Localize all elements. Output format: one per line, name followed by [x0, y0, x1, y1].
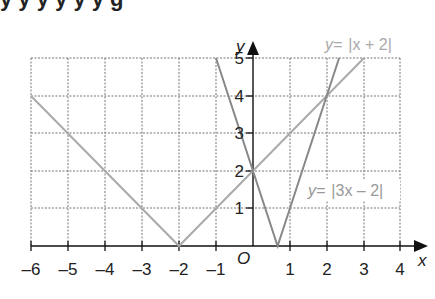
- svg-text:4: 4: [235, 87, 244, 106]
- svg-text:1: 1: [235, 199, 244, 218]
- svg-text:–1: –1: [207, 260, 226, 279]
- svg-text:3: 3: [359, 260, 368, 279]
- svg-text:1: 1: [285, 260, 294, 279]
- svg-text:y=|3x – 2|: y=|3x – 2|: [307, 182, 383, 199]
- x-axis-label: x: [417, 251, 427, 270]
- svg-text:2: 2: [322, 260, 331, 279]
- svg-text:2: 2: [235, 162, 244, 181]
- x-tick-labels: –6 –5 –4 –3 –2 –1 1 2 3 4: [22, 260, 405, 279]
- y-axis-label: y: [235, 37, 246, 56]
- y-ticks: [246, 58, 253, 208]
- svg-text:–6: –6: [22, 260, 41, 279]
- chart: –6 –5 –4 –3 –2 –1 1 2 3 4 1 2 3 4 5 y x …: [0, 0, 435, 299]
- svg-text:–2: –2: [170, 260, 189, 279]
- series-abs-x-plus-2: [31, 58, 364, 246]
- fn1-label: y=|x + 2|: [324, 36, 392, 53]
- svg-text:–4: –4: [96, 260, 115, 279]
- svg-text:y=|x + 2|: y=|x + 2|: [324, 36, 392, 53]
- svg-text:3: 3: [235, 124, 244, 143]
- svg-text:–3: –3: [133, 260, 152, 279]
- origin-label: O: [237, 249, 250, 268]
- axes: [31, 50, 420, 246]
- y-axis-arrow-icon: [247, 41, 259, 55]
- y-tick-labels: 1 2 3 4 5: [235, 49, 244, 218]
- svg-text:–5: –5: [59, 260, 78, 279]
- svg-text:4: 4: [395, 260, 404, 279]
- fn2-label: y=|3x – 2|: [307, 182, 383, 199]
